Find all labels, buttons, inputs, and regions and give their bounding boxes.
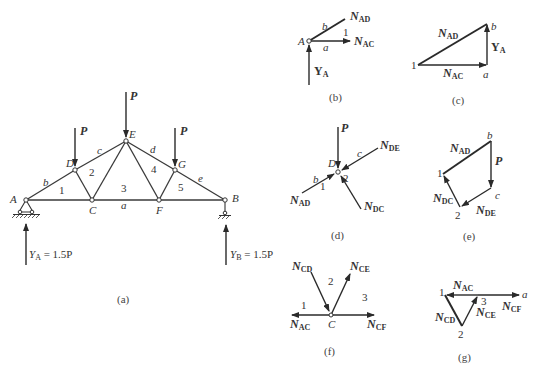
- region-label-3: 3: [362, 291, 368, 303]
- node-C: [90, 198, 94, 202]
- roller-support-B: [218, 200, 231, 219]
- panel-b-joint-A: A b a 1 NAD NAC YA (b): [297, 9, 374, 104]
- panel-f-joint-C: C 1 2 3 NCD NCE NAC NCF (f): [289, 259, 386, 358]
- force-label-P: P: [495, 154, 503, 168]
- panel-e-force-polygon: b c 1 2 P NAD NDC NDE (e): [432, 129, 503, 243]
- reaction-label-A: YA = 1.5P: [29, 248, 72, 262]
- node-A: [307, 39, 311, 43]
- panel-caption-b: (b): [329, 91, 342, 104]
- node-F: [157, 198, 161, 202]
- force-label-N-AC: NAC: [353, 34, 374, 49]
- force-label-Y-A: YA: [314, 64, 329, 79]
- truss-analysis-figure: P P P A B C D E F G 1 2 3 4 5 a b c d e …: [0, 0, 542, 371]
- node-label-D: D: [65, 157, 74, 169]
- member-FG: [159, 170, 175, 200]
- force-label-P: P: [341, 121, 349, 135]
- region-label-1: 1: [320, 180, 326, 192]
- force-label-N-DE: NDE: [475, 203, 496, 218]
- panel-g-force-polygon: 1 2 3 a NAC NCF NCE NCD (g): [434, 278, 528, 364]
- panel-caption-e: (e): [463, 230, 476, 243]
- force-label-N-CD: NCD: [291, 259, 312, 274]
- point-label-1: 1: [437, 167, 443, 179]
- force-label-N-CD: NCD: [434, 310, 455, 325]
- region-label-1: 1: [59, 184, 65, 196]
- panel-caption-c: (c): [452, 94, 465, 107]
- force-label-N-CE: NCE: [349, 259, 370, 274]
- load-label-G: P: [180, 124, 188, 138]
- node-D: [336, 170, 340, 174]
- panel-caption-a: (a): [117, 293, 130, 306]
- force-label-Y-A: YA: [491, 40, 506, 55]
- node-label-A: A: [297, 35, 305, 47]
- force-label-N-DC: NDC: [432, 191, 453, 206]
- node-label-F: F: [155, 204, 163, 216]
- force-label-N-AC: NAC: [452, 278, 473, 293]
- point-label-2: 2: [458, 328, 464, 340]
- space-label-e: e: [198, 172, 203, 184]
- point-label-a: a: [522, 288, 528, 300]
- region-label-4: 4: [151, 163, 157, 175]
- force-label-N-DE: NDE: [379, 138, 400, 153]
- point-label-a: a: [483, 68, 489, 80]
- node-label-D: D: [327, 157, 336, 169]
- force-label-N-AD: NAD: [289, 193, 310, 208]
- space-label-b: b: [43, 176, 49, 188]
- node-label-A: A: [9, 193, 17, 205]
- force-label-N-DC: NDC: [363, 199, 384, 214]
- force-label-N-AD: NAD: [437, 26, 458, 41]
- point-label-1: 1: [439, 286, 445, 298]
- vector-N-AD: [418, 24, 487, 65]
- panel-c-force-polygon: 1 a b NAD NAC YA (c): [411, 20, 506, 107]
- region-label-2: 2: [328, 275, 334, 287]
- point-label-1: 1: [411, 59, 417, 71]
- space-label-b: b: [322, 20, 328, 32]
- panel-a-truss: P P P A B C D E F G 1 2 3 4 5 a b c d e …: [9, 89, 273, 306]
- force-label-N-CE: NCE: [475, 305, 496, 320]
- space-label-c: c: [357, 147, 362, 159]
- load-label-E: P: [130, 89, 138, 103]
- panel-caption-d: (d): [331, 229, 344, 242]
- force-label-N-AC: NAC: [289, 317, 310, 332]
- space-label-c: c: [97, 144, 102, 156]
- space-label-a: a: [121, 199, 127, 211]
- node-label-C: C: [328, 318, 336, 330]
- space-label-b: b: [313, 173, 319, 185]
- node-label-C: C: [89, 204, 97, 216]
- node-label-E: E: [128, 128, 136, 140]
- region-label-2: 2: [89, 166, 95, 178]
- region-label-5: 5: [178, 181, 184, 193]
- region-label-3: 3: [121, 182, 127, 194]
- node-A: [24, 198, 28, 202]
- point-label-b: b: [491, 20, 497, 32]
- force-label-N-AD: NAD: [449, 141, 470, 156]
- force-label-N-CF: NCF: [501, 299, 521, 314]
- panel-d-joint-D: D b c 1 2 P NDE NAD NDC (d): [289, 121, 400, 242]
- node-B: [223, 198, 227, 202]
- node-C: [329, 313, 333, 317]
- force-label-N-AD: NAD: [349, 9, 370, 24]
- vector-N-CE: [462, 297, 477, 326]
- load-label-D: P: [80, 124, 88, 138]
- panel-caption-g: (g): [458, 351, 471, 364]
- reaction-label-B: YB = 1.5P: [230, 248, 273, 262]
- force-label-N-AC: NAC: [442, 66, 463, 81]
- force-N-CE: [331, 274, 350, 315]
- region-label-2: 2: [343, 172, 349, 184]
- space-label-a: a: [323, 41, 329, 53]
- node-label-B: B: [232, 192, 239, 204]
- region-label-1: 1: [301, 299, 307, 311]
- point-label-2: 2: [455, 209, 461, 221]
- region-label-1: 1: [343, 26, 349, 38]
- point-label-c: c: [495, 189, 500, 201]
- space-label-d: d: [150, 143, 156, 155]
- point-label-b: b: [487, 129, 493, 141]
- node-E: [124, 139, 128, 143]
- force-N-CD: [311, 272, 329, 311]
- force-label-N-CF: NCF: [366, 317, 386, 332]
- node-G: [173, 168, 177, 172]
- node-label-G: G: [178, 158, 186, 170]
- panel-caption-f: (f): [324, 345, 335, 358]
- member-AD: [26, 170, 75, 200]
